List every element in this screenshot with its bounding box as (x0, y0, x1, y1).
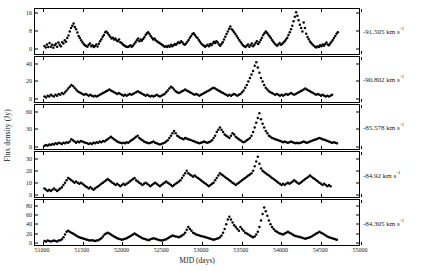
panel-plot-area (35, 105, 359, 150)
x-tick-mark (242, 146, 243, 149)
x-tick-mark (361, 99, 362, 102)
x-tick-mark (83, 9, 84, 12)
velocity-label-exponent: -1 (396, 170, 400, 175)
x-tick-mark (321, 200, 322, 203)
x-tick-mark (361, 152, 362, 155)
x-tick-mark (43, 200, 44, 203)
x-tick-mark (281, 152, 282, 155)
panel-plot-area (35, 9, 359, 54)
y-tick-label: 16 (26, 10, 32, 16)
velocity-label: -84.92 km s-1 (363, 170, 400, 179)
x-tick-label: 53500 (233, 247, 248, 253)
y-tick-label: 60 (26, 109, 32, 115)
y-tick-mark (35, 98, 38, 99)
y-tick-mark (35, 31, 38, 32)
y-tick-mark (35, 171, 38, 172)
x-tick-mark (321, 9, 322, 12)
light-curve-panel: 02040 (34, 56, 360, 103)
x-tick-mark (242, 57, 243, 60)
x-tick-mark (321, 51, 322, 54)
y-tick-mark (356, 159, 359, 160)
y-tick-mark (356, 13, 359, 14)
y-tick-mark (35, 215, 38, 216)
y-tick-mark (35, 147, 38, 148)
x-tick-mark (43, 242, 44, 245)
y-tick-mark (356, 63, 359, 64)
y-tick-label: 40 (26, 221, 32, 227)
y-tick-mark (35, 233, 38, 234)
x-tick-label: 54500 (313, 247, 328, 253)
x-tick-mark (361, 57, 362, 60)
y-tick-label: 80 (26, 203, 32, 209)
y-tick-mark (356, 205, 359, 206)
velocity-label: -91.505 km s-1 (363, 27, 404, 36)
x-tick-mark (281, 242, 282, 245)
x-tick-label: 55000 (353, 247, 368, 253)
x-tick-mark (321, 152, 322, 155)
x-tick-mark (43, 146, 44, 149)
x-tick-mark (83, 105, 84, 108)
y-tick-mark (35, 63, 38, 64)
x-tick-mark (202, 146, 203, 149)
x-tick-mark (242, 194, 243, 197)
y-tick-mark (356, 243, 359, 244)
y-tick-mark (35, 129, 38, 130)
x-tick-mark (281, 51, 282, 54)
x-tick-mark (202, 200, 203, 203)
x-tick-mark (122, 105, 123, 108)
x-tick-mark (162, 51, 163, 54)
x-tick-label: 52000 (114, 247, 129, 253)
y-tick-mark (356, 224, 359, 225)
y-tick-mark (356, 215, 359, 216)
x-tick-mark (202, 105, 203, 108)
x-tick-mark (321, 57, 322, 60)
y-tick-mark (356, 171, 359, 172)
x-tick-mark (281, 194, 282, 197)
y-tick-mark (356, 98, 359, 99)
velocity-label-exponent: -1 (400, 218, 404, 223)
y-tick-label: 0 (29, 46, 32, 52)
velocity-label-text: -85.578 km s (363, 124, 400, 132)
x-tick-mark (162, 57, 163, 60)
velocity-label-text: -90.802 km s (363, 76, 400, 84)
x-tick-mark (202, 194, 203, 197)
x-tick-mark (242, 9, 243, 12)
y-tick-label: 0 (29, 240, 32, 246)
x-tick-mark (122, 152, 123, 155)
x-tick-mark (361, 51, 362, 54)
x-tick-mark (361, 146, 362, 149)
x-tick-mark (361, 194, 362, 197)
x-tick-mark (83, 99, 84, 102)
x-tick-label: 52500 (154, 247, 169, 253)
x-tick-mark (361, 242, 362, 245)
x-tick-mark (202, 242, 203, 245)
x-tick-mark (321, 99, 322, 102)
y-tick-mark (35, 13, 38, 14)
y-tick-mark (35, 224, 38, 225)
x-tick-mark (242, 105, 243, 108)
figure-root: Flux density (Jy) 0816020400306001020300… (0, 0, 422, 271)
x-tick-mark (122, 99, 123, 102)
x-tick-mark (83, 146, 84, 149)
x-tick-mark (122, 9, 123, 12)
x-tick-mark (242, 51, 243, 54)
x-tick-mark (122, 51, 123, 54)
x-tick-label: 51000 (34, 247, 49, 253)
y-tick-label: 10 (26, 180, 32, 186)
y-tick-label: 0 (29, 144, 32, 150)
x-tick-mark (162, 9, 163, 12)
y-tick-label: 0 (29, 96, 32, 102)
x-tick-mark (122, 242, 123, 245)
x-tick-mark (162, 152, 163, 155)
velocity-label-exponent: -1 (400, 75, 404, 80)
velocity-label-exponent: -1 (400, 122, 404, 127)
y-tick-mark (35, 243, 38, 244)
velocity-label: -85.578 km s-1 (363, 122, 404, 131)
x-tick-mark (43, 9, 44, 12)
light-curve-panel: 0102030 (34, 151, 360, 198)
y-tick-mark (356, 194, 359, 195)
y-axis-title: Flux density (Jy) (0, 0, 14, 271)
x-tick-mark (83, 194, 84, 197)
x-tick-mark (202, 9, 203, 12)
x-tick-mark (321, 105, 322, 108)
